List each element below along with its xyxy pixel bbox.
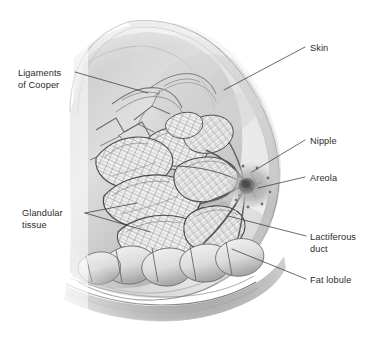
label-line: Skin (310, 43, 328, 53)
label-nipple: Nipple (310, 136, 337, 146)
label-skin: Skin (310, 43, 328, 53)
label-line: Fat lobule (310, 275, 351, 285)
label-fat-lobule: Fat lobule (310, 275, 351, 285)
breast-anatomy-figure: Ligaments of Cooper Skin Nipple Areola G… (0, 0, 368, 341)
label-line: Nipple (310, 136, 337, 146)
label-line: Areola (310, 173, 338, 183)
anatomy-illustration: Ligaments of Cooper Skin Nipple Areola G… (0, 0, 368, 341)
label-line: Ligaments (18, 68, 62, 78)
label-line: of Cooper (18, 80, 59, 90)
label-areola: Areola (310, 173, 338, 183)
label-line: tissue (22, 220, 47, 230)
label-line: Glandular (22, 208, 63, 218)
label-line: Lactiferous (310, 232, 356, 242)
label-line: duct (310, 244, 328, 254)
